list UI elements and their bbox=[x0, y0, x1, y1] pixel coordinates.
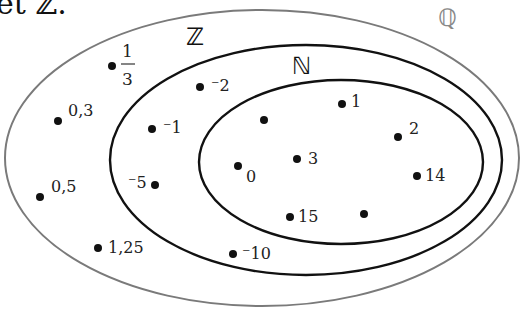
point-minus-1: ⁻1 bbox=[148, 118, 182, 137]
caption-fragment: et ℤ. bbox=[0, 0, 67, 21]
point-unlabeled-b bbox=[360, 210, 368, 218]
point-label: 0 bbox=[246, 167, 256, 186]
point-minus-10: ⁻10 bbox=[229, 244, 271, 263]
point-label: 0,3 bbox=[68, 101, 93, 120]
point-dot bbox=[394, 133, 402, 141]
point-dot bbox=[54, 117, 62, 125]
point-dot bbox=[196, 83, 204, 91]
point-dot bbox=[234, 162, 242, 170]
point-label: ⁻1 bbox=[163, 118, 182, 137]
fraction-denominator: 3 bbox=[122, 69, 133, 89]
set-z-label: ℤ bbox=[186, 23, 204, 51]
point-label: ⁻10 bbox=[242, 244, 271, 263]
point-14: 14 bbox=[413, 166, 445, 185]
point-dot bbox=[338, 100, 346, 108]
point-label: 0,5 bbox=[51, 177, 76, 196]
set-q-label: ℚ bbox=[438, 4, 457, 32]
point-one-third: 1 3 bbox=[108, 41, 135, 89]
point-dot bbox=[413, 172, 421, 180]
point-dot bbox=[151, 181, 159, 189]
point-dot bbox=[94, 244, 102, 252]
point-minus-2: ⁻2 bbox=[196, 76, 230, 95]
point-label: ⁻5 bbox=[128, 173, 147, 192]
point-unlabeled-a bbox=[260, 116, 268, 124]
point-15: 15 bbox=[286, 207, 318, 226]
point-2: 2 bbox=[394, 119, 419, 141]
point-0: 0 bbox=[234, 162, 256, 186]
point-0-5: 0,5 bbox=[36, 177, 76, 201]
point-dot bbox=[108, 62, 116, 70]
point-label: 15 bbox=[298, 207, 318, 226]
point-minus-5: ⁻5 bbox=[128, 173, 159, 192]
number-sets-venn-diagram: et ℤ. ℚ ℤ ℕ 1 3 0,3 0,5 1,25 ⁻2 ⁻1 ⁻5 bbox=[0, 0, 521, 312]
point-label: 14 bbox=[425, 166, 445, 185]
point-dot bbox=[229, 250, 237, 258]
point-label: ⁻2 bbox=[211, 76, 230, 95]
point-label: 1 bbox=[351, 92, 361, 111]
point-dot bbox=[148, 125, 156, 133]
point-0-3: 0,3 bbox=[54, 101, 93, 125]
point-dot bbox=[36, 193, 44, 201]
point-dot bbox=[286, 213, 294, 221]
point-label: 3 bbox=[308, 149, 318, 168]
fraction-numerator: 1 bbox=[122, 41, 133, 61]
point-dot bbox=[293, 155, 301, 163]
set-n-label: ℕ bbox=[292, 52, 311, 80]
point-1: 1 bbox=[338, 92, 361, 111]
point-3: 3 bbox=[293, 149, 318, 168]
point-label: 1,25 bbox=[108, 238, 144, 257]
point-label: 2 bbox=[409, 119, 419, 138]
point-1-25: 1,25 bbox=[94, 238, 144, 257]
